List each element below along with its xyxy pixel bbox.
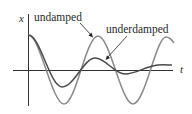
underdamped-arrow bbox=[107, 36, 127, 58]
undamped-label: undamped bbox=[34, 12, 82, 24]
oscillation-diagram bbox=[0, 0, 192, 114]
y-axis-label: x bbox=[19, 13, 24, 24]
undamped-curve bbox=[29, 35, 175, 104]
x-axis-label: t bbox=[180, 64, 183, 75]
underdamped-arrowhead-icon bbox=[106, 56, 111, 61]
underdamped-label: underdamped bbox=[106, 24, 169, 36]
